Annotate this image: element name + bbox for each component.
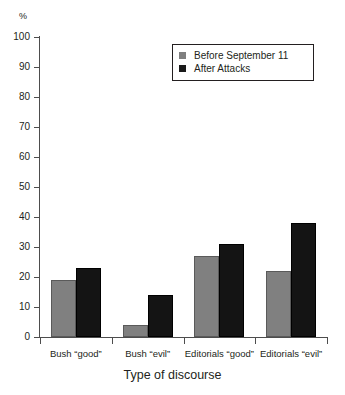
x-tick-mark [255, 338, 256, 344]
y-tick-label: 10 [2, 302, 30, 312]
bar [51, 280, 76, 337]
y-tick-mark [34, 217, 39, 218]
y-tick-label: 30 [2, 242, 30, 252]
y-tick-mark [34, 157, 39, 158]
y-tick-label: 40 [2, 212, 30, 222]
y-tick-mark [34, 67, 39, 68]
y-tick-mark [34, 187, 39, 188]
y-tick-mark [34, 337, 39, 338]
bar [76, 268, 101, 337]
y-tick-label: 60 [2, 152, 30, 162]
legend-label: After Attacks [194, 63, 250, 75]
y-tick-label: 80 [2, 92, 30, 102]
x-category-label: Editorials “evil” [249, 348, 333, 359]
bar [148, 295, 173, 337]
legend-swatch-before-icon [179, 52, 186, 59]
x-axis-title: Type of discourse [0, 368, 345, 383]
bar [266, 271, 291, 337]
legend-item: Before September 11 [179, 49, 307, 62]
x-tick-mark [40, 338, 41, 344]
bar [291, 223, 316, 337]
y-tick-label: 90 [2, 62, 30, 72]
y-tick-label: 100 [2, 32, 30, 42]
x-tick-mark [184, 338, 185, 344]
x-tick-mark [112, 338, 113, 344]
y-tick-label: 50 [2, 182, 30, 192]
y-tick-mark [34, 247, 39, 248]
x-tick-mark [327, 338, 328, 344]
bar [194, 256, 219, 337]
legend-label: Before September 11 [194, 50, 288, 62]
y-tick-mark [34, 127, 39, 128]
y-axis-unit-label: % [19, 11, 27, 21]
bar [123, 325, 148, 337]
y-tick-label: 70 [2, 122, 30, 132]
y-tick-mark [34, 97, 39, 98]
y-tick-mark [34, 37, 39, 38]
y-tick-mark [34, 307, 39, 308]
y-tick-label: 0 [2, 332, 30, 342]
bar [219, 244, 244, 337]
y-tick-mark [34, 277, 39, 278]
chart-legend: Before September 11 After Attacks [172, 44, 314, 81]
bar-chart: % 0102030405060708090100 Bush “good”Bush… [0, 0, 345, 395]
y-tick-label: 20 [2, 272, 30, 282]
legend-item: After Attacks [179, 62, 307, 75]
plot-area [40, 37, 327, 337]
legend-swatch-after-icon [179, 65, 186, 72]
